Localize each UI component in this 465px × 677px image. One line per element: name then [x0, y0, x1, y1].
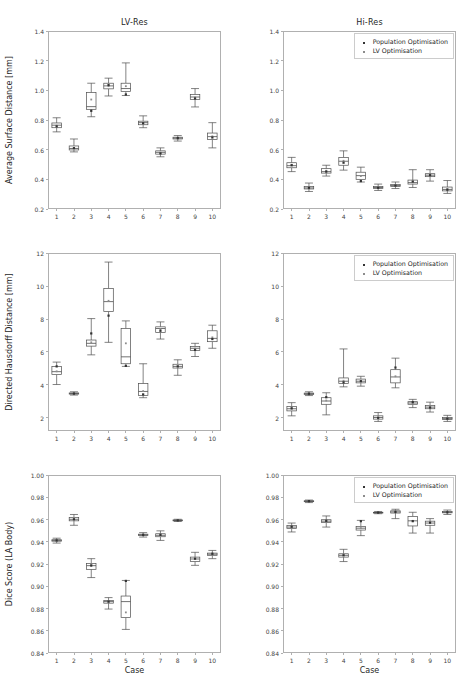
population-optimisation-marker	[56, 365, 58, 367]
x-tick-mark	[74, 209, 75, 211]
boxplot-case-10	[443, 415, 453, 421]
y-tick-label: 0.86	[249, 627, 279, 634]
y-tick-label: 1.00	[249, 472, 279, 479]
population-optimisation-marker	[107, 84, 109, 86]
population-marker-icon	[359, 481, 369, 490]
legend-label: Population Optimisation	[373, 481, 448, 490]
plot-panel-asd-hires: Hi-Res0.20.40.60.81.01.21.412345678910Po…	[283, 31, 456, 209]
x-tick-mark	[91, 209, 92, 211]
y-axis-label: Average Surface Distance [mm]	[5, 56, 14, 184]
boxplot-case-1	[287, 157, 297, 171]
lv-optimisation-marker	[125, 85, 127, 87]
x-tick-label: 4	[107, 213, 111, 220]
x-tick-label: 1	[55, 213, 59, 220]
boxplot-case-1	[287, 523, 297, 532]
y-tick-label: 1.4	[14, 28, 44, 35]
boxplot-case-8	[408, 399, 418, 407]
population-optimisation-marker	[211, 338, 213, 340]
population-optimisation-marker	[412, 401, 414, 403]
boxplot-case-5	[121, 321, 131, 367]
lv-optimisation-marker	[90, 99, 92, 101]
population-optimisation-marker	[394, 366, 396, 368]
boxplot-case-2	[304, 392, 314, 396]
legend-label: LV Optimisation	[373, 46, 422, 55]
boxplot-case-7	[156, 531, 166, 541]
y-tick-label: 4	[249, 381, 279, 388]
y-axis-label: Dice Score (LA Body)	[5, 522, 14, 606]
x-tick-label: 5	[124, 657, 128, 664]
x-tick-label: 3	[324, 657, 328, 664]
legend-dice-hires: Population OptimisationLV Optimisation	[354, 477, 454, 503]
y-tick-label: 0.90	[249, 583, 279, 590]
x-tick-label: 2	[72, 657, 76, 664]
lv-optimisation-marker	[125, 611, 127, 613]
x-tick-mark	[177, 431, 178, 433]
y-tick-label: 0.98	[249, 494, 279, 501]
x-tick-label: 7	[159, 435, 163, 442]
x-tick-mark	[430, 209, 431, 211]
population-optimisation-marker	[429, 522, 431, 524]
x-tick-label: 4	[342, 657, 346, 664]
x-tick-mark	[108, 653, 109, 655]
boxplot-case-3	[321, 393, 331, 415]
x-tick-label: 10	[444, 213, 452, 220]
boxplot-case-3	[86, 319, 96, 355]
boxplot-case-10	[443, 181, 453, 194]
population-optimisation-marker	[56, 125, 58, 127]
boxplot-case-5	[121, 580, 131, 630]
population-optimisation-marker	[73, 518, 75, 520]
x-tick-label: 1	[55, 435, 59, 442]
x-tick-mark	[360, 209, 361, 211]
x-tick-mark	[412, 431, 413, 433]
x-tick-label: 6	[141, 213, 145, 220]
x-tick-mark	[309, 653, 310, 655]
lv-optimisation-marker	[343, 160, 345, 162]
boxplot-case-9	[425, 519, 435, 533]
subplot-title-asd-hires: Hi-Res	[283, 18, 456, 27]
x-tick-label: 2	[307, 213, 311, 220]
boxplot-case-7	[156, 322, 166, 339]
population-optimisation-marker	[125, 93, 127, 95]
y-tick-label: 0.4	[14, 176, 44, 183]
x-tick-mark	[378, 431, 379, 433]
population-optimisation-marker	[56, 539, 58, 541]
y-tick-label: 1.0	[249, 87, 279, 94]
population-optimisation-marker	[446, 189, 448, 191]
population-optimisation-marker	[159, 534, 161, 536]
legend-entry: LV Optimisation	[359, 268, 448, 277]
boxplot-series-dice-lvres	[48, 475, 221, 653]
boxplot-case-10	[443, 510, 453, 514]
y-tick-label: 4	[14, 381, 44, 388]
x-tick-label: 3	[324, 435, 328, 442]
x-tick-label: 9	[428, 435, 432, 442]
population-optimisation-marker	[159, 330, 161, 332]
x-tick-label: 8	[411, 657, 415, 664]
population-optimisation-marker	[142, 122, 144, 124]
x-tick-mark	[91, 431, 92, 433]
boxplot-case-4	[339, 349, 349, 387]
y-tick-label: 0.4	[249, 176, 279, 183]
x-tick-mark	[326, 209, 327, 211]
x-tick-label: 2	[307, 435, 311, 442]
boxplot-case-6	[138, 364, 148, 398]
boxplot-case-1	[287, 403, 297, 416]
population-optimisation-marker	[73, 147, 75, 149]
population-optimisation-marker	[308, 500, 310, 502]
x-tick-label: 10	[209, 213, 217, 220]
x-tick-mark	[108, 431, 109, 433]
population-optimisation-marker	[308, 187, 310, 189]
y-tick-label: 0.2	[14, 206, 44, 213]
boxplot-case-3	[86, 559, 96, 578]
x-tick-label: 1	[55, 657, 59, 664]
x-tick-label: 2	[72, 213, 76, 220]
population-optimisation-marker	[90, 332, 92, 334]
population-optimisation-marker	[394, 184, 396, 186]
y-tick-label: 1.0	[14, 87, 44, 94]
x-tick-mark	[412, 209, 413, 211]
x-tick-mark	[309, 431, 310, 433]
x-tick-mark	[108, 209, 109, 211]
y-tick-label: 0.2	[249, 206, 279, 213]
legend-hd-hires: Population OptimisationLV Optimisation	[354, 255, 454, 281]
x-tick-label: 3	[89, 213, 93, 220]
x-tick-label: 9	[193, 657, 197, 664]
